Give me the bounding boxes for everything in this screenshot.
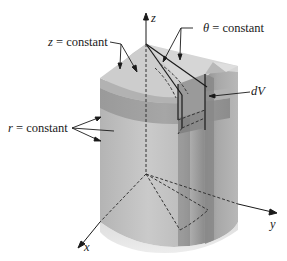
theta-constant-label: θ = constant bbox=[203, 22, 264, 35]
x-axis-label: x bbox=[84, 241, 90, 254]
z-axis-label: z bbox=[151, 12, 156, 25]
theta-constant-text: = constant bbox=[209, 21, 264, 35]
y-axis-arrowhead bbox=[269, 209, 277, 215]
z-constant-text: = constant bbox=[53, 35, 108, 49]
y-axis bbox=[238, 204, 272, 212]
r-constant-text: = constant bbox=[13, 121, 68, 135]
z-constant-label: z = constant bbox=[48, 36, 108, 49]
z-axis-arrowhead bbox=[144, 13, 149, 20]
theta-constant-leader-2 bbox=[180, 28, 181, 56]
cylindrical-volume-element-diagram: z = constant θ = constant r = constant d… bbox=[0, 0, 287, 261]
dV-label: dV bbox=[251, 85, 265, 98]
y-axis-label: y bbox=[270, 218, 276, 231]
r-constant-label: r = constant bbox=[8, 122, 68, 135]
z-constant-leader-1 bbox=[110, 42, 121, 66]
